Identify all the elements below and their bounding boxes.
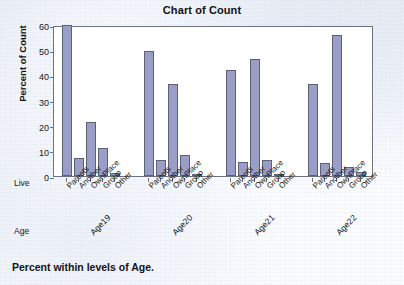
y-axis-tick-label: 30 — [39, 98, 49, 108]
y-axis-tick-mark — [50, 127, 54, 128]
y-axis-tick-mark — [50, 77, 54, 78]
x-axis-group-label: Age21 — [252, 213, 276, 237]
y-axis-tick-mark — [50, 27, 54, 28]
y-axis-tick-label: 10 — [39, 148, 49, 158]
bar-group — [61, 27, 121, 176]
y-axis-tick-mark — [50, 52, 54, 53]
chart-footnote: Percent within levels of Age. — [12, 261, 154, 273]
plot-area: 0102030405060 — [53, 26, 373, 177]
bar-group — [143, 27, 203, 176]
y-axis-tick-label: 0 — [44, 173, 49, 183]
row-header-age: Age — [14, 226, 29, 236]
y-axis-tick-mark — [50, 178, 54, 179]
bar[interactable] — [144, 51, 154, 176]
bar[interactable] — [308, 84, 318, 176]
x-axis-group-label: Age20 — [170, 213, 194, 237]
chart-title: Chart of Count — [0, 4, 404, 16]
y-axis-tick-label: 20 — [39, 123, 49, 133]
x-axis-group-label: Age19 — [88, 213, 112, 237]
bar[interactable] — [226, 70, 236, 176]
row-header-live: Live — [14, 178, 30, 188]
bar[interactable] — [168, 84, 178, 176]
chart-page: Chart of Count Percent of Count 01020304… — [0, 0, 404, 285]
plot-inner: 0102030405060 — [54, 27, 372, 176]
bar[interactable] — [250, 59, 260, 176]
bar-group — [307, 27, 367, 176]
y-axis-tick-label: 50 — [39, 47, 49, 57]
y-axis-tick-mark — [50, 102, 54, 103]
bar[interactable] — [62, 25, 72, 176]
y-axis-tick-label: 60 — [39, 22, 49, 32]
x-axis-group-label: Age22 — [334, 213, 358, 237]
bar-group — [225, 27, 285, 176]
y-axis-title: Percent of Count — [17, 4, 28, 124]
bar[interactable] — [332, 35, 342, 176]
y-axis-tick-mark — [50, 152, 54, 153]
y-axis-tick-label: 40 — [39, 72, 49, 82]
